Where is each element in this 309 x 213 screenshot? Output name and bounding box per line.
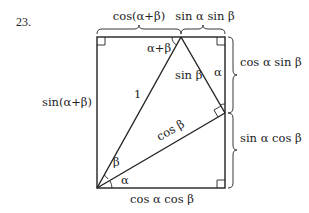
right-angle-top-right [217, 37, 225, 45]
brace-top-right [181, 25, 225, 34]
label-angle-alpha-right: α [214, 65, 222, 79]
label-sin-alpha-cos-beta: sin α cos β [240, 131, 302, 145]
brace-top-left [97, 25, 181, 34]
problem-number: 23. [16, 15, 31, 29]
angle-arc-beta [104, 175, 108, 179]
label-hypotenuse-one: 1 [134, 87, 141, 101]
label-sin-alpha-sin-beta: sin α sin β [175, 9, 235, 23]
label-cos-alpha-plus-beta: cos(α+β) [113, 9, 165, 23]
hypotenuse-line [97, 37, 181, 188]
angle-arc-alpha [110, 181, 112, 188]
label-angle-beta: β [113, 155, 120, 169]
label-cos-alpha-sin-beta: cos α sin β [240, 55, 302, 69]
cos-beta-line [97, 113, 225, 188]
label-angle-alpha: α [121, 173, 129, 187]
right-angle-top-left [97, 37, 105, 45]
label-sin-beta: sin β [175, 68, 203, 82]
brace-right-upper [228, 37, 237, 113]
label-sin-alpha-plus-beta: sin(α+β) [42, 95, 92, 109]
brace-right-lower [228, 113, 237, 188]
label-cos-beta: cos β [154, 117, 187, 144]
right-angle-bottom-right [217, 180, 225, 188]
label-angle-alpha-plus-beta: α+β [147, 41, 171, 55]
angle-arc-top [172, 37, 177, 45]
trig-diagram: 23. cos(α+β) sin α sin β cos α sin β sin… [0, 0, 309, 213]
label-cos-alpha-cos-beta: cos α cos β [130, 192, 194, 206]
